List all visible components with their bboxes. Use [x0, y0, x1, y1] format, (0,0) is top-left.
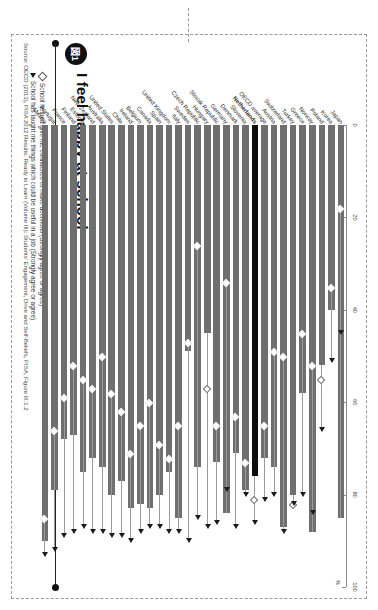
bar [261, 125, 268, 458]
marker-connector [274, 351, 275, 494]
marker-connector [130, 453, 131, 541]
triangle-marker [166, 528, 172, 533]
rotated-figure-canvas: 図1 I feel happy at school School helped … [15, 39, 363, 595]
figure-page: 図1 I feel happy at school School helped … [0, 0, 378, 610]
bar [233, 125, 240, 453]
triangle-marker [271, 491, 277, 496]
triangle-marker [281, 528, 287, 533]
bar [185, 125, 192, 351]
bar [290, 125, 297, 495]
value-axis: 020406080100 [346, 125, 347, 587]
axis-tick-label: 60 [352, 399, 358, 405]
bar [252, 125, 259, 476]
chart-row [240, 125, 250, 587]
bar [328, 125, 335, 310]
marker-connector [178, 425, 179, 531]
chart-row [211, 125, 221, 587]
marker-connector [159, 443, 160, 526]
marker-connector [312, 365, 313, 531]
triangle-marker [233, 524, 239, 529]
triangle-marker [338, 330, 344, 335]
triangle-marker [205, 524, 211, 529]
bar [42, 125, 49, 541]
triangle-marker [71, 528, 77, 533]
marker-connector [121, 411, 122, 536]
chart-row [230, 125, 240, 587]
marker-connector [283, 356, 284, 532]
marker-connector [207, 332, 208, 526]
bar [319, 125, 326, 365]
marker-connector [64, 397, 65, 536]
chart-row [125, 125, 135, 587]
chart-row [164, 125, 174, 587]
chart-row [78, 125, 88, 587]
triangle-marker [300, 491, 306, 496]
marker-connector [340, 208, 341, 518]
marker-connector [83, 379, 84, 527]
chart-row [49, 125, 59, 587]
triangle-marker [119, 533, 125, 538]
chart-row [221, 125, 231, 587]
axis-tick-label: 40 [352, 306, 358, 312]
marker-connector [216, 425, 217, 522]
triangle-marker [61, 533, 67, 538]
triangle-marker [195, 515, 201, 520]
triangle-marker [176, 528, 182, 533]
chart-row [135, 125, 145, 587]
chart-row [87, 125, 97, 587]
marker-connector [321, 365, 322, 430]
chart-row [269, 125, 279, 587]
chart-row [326, 125, 336, 587]
chart-row [250, 125, 260, 587]
triangle-marker [128, 538, 134, 543]
chart-row [202, 125, 212, 587]
chart-row [154, 125, 164, 587]
axis-tick-label: 80 [352, 491, 358, 497]
triangle-marker [157, 524, 163, 529]
triangle-marker [243, 491, 249, 496]
triangle-marker [186, 538, 192, 543]
triangle-marker [81, 524, 87, 529]
marker-connector [331, 286, 332, 360]
chart-row [97, 125, 107, 587]
marker-connector [149, 402, 150, 527]
diamond-marker [317, 375, 326, 384]
bar [166, 125, 173, 472]
bar [214, 125, 221, 462]
chart-row [68, 125, 78, 587]
marker-connector [92, 388, 93, 531]
chart-plot-area: 020406080100 % [97, 125, 347, 587]
marker-connector [140, 425, 141, 531]
axis-tick-label: 20 [352, 214, 358, 220]
triangle-marker [109, 533, 115, 538]
marker-connector [226, 282, 227, 513]
axis-tick-label: 0 [352, 123, 358, 126]
marker-connector [235, 416, 236, 527]
bar-rows [40, 125, 346, 587]
bar [204, 125, 211, 333]
marker-connector [102, 356, 103, 532]
category-axis-labels: JapanKoreaPolandNorwayGreeceTurkeySwitze… [95, 39, 345, 123]
figure-sheet: 図1 I feel happy at school School helped … [11, 34, 367, 599]
triangle-marker [90, 528, 96, 533]
triangle-marker [319, 427, 325, 432]
marker-connector [302, 332, 303, 494]
triangle-marker [252, 519, 258, 524]
chart-row [40, 125, 50, 587]
diamond-marker [202, 384, 211, 393]
triangle-marker [52, 547, 58, 552]
chart-row [297, 125, 307, 587]
chart-row [106, 125, 116, 587]
marker-connector [264, 425, 265, 499]
marker-connector [197, 245, 198, 518]
triangle-marker [147, 524, 153, 529]
chart-row [335, 125, 345, 587]
marker-connector [169, 457, 170, 531]
triangle-marker [214, 519, 220, 524]
axis-tick-label: 100 [352, 582, 358, 591]
chart-row [192, 125, 202, 587]
triangle-marker [310, 510, 316, 515]
marker-connector [188, 342, 189, 541]
triangle-marker [329, 357, 335, 362]
chart-row [278, 125, 288, 587]
